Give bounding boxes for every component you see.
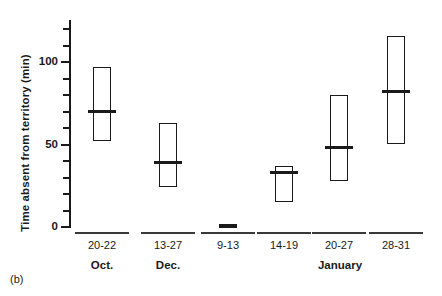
box-flat-marker (219, 224, 237, 228)
box-median-line (88, 110, 116, 113)
x-axis-month-label: January (295, 258, 385, 272)
x-axis-tick-label: 13-27 (138, 238, 198, 252)
x-axis-tick-label: 28-31 (366, 238, 426, 252)
x-axis-segment (75, 232, 129, 234)
panel-caption: (b) (10, 272, 23, 286)
box-median-line (325, 146, 353, 149)
x-axis-tick-label: 20-27 (309, 238, 369, 252)
y-axis-tick-label: 50 (28, 138, 58, 150)
x-axis-tick-label: 9-13 (198, 238, 258, 252)
y-axis-tick-label: 0 (28, 220, 58, 232)
x-axis-segment (257, 232, 311, 234)
box-range (93, 67, 111, 141)
x-axis-segment (312, 232, 366, 234)
x-axis-segment (141, 232, 195, 234)
box-range (159, 123, 177, 187)
x-axis-segment (201, 232, 255, 234)
x-axis-tick-label: 14-19 (254, 238, 314, 252)
x-axis-tick-label: 20-22 (72, 238, 132, 252)
box-median-line (382, 90, 410, 93)
y-axis-tick-label: 100 (28, 55, 58, 67)
box-median-line (154, 161, 182, 164)
box-range (330, 95, 348, 181)
x-axis-month-label: Dec. (123, 258, 213, 272)
box-median-line (270, 171, 298, 174)
figure-panel-b: Time absent from territory (min) 050100 … (0, 0, 442, 296)
plot-area (69, 20, 442, 228)
x-axis-segment (369, 232, 423, 234)
